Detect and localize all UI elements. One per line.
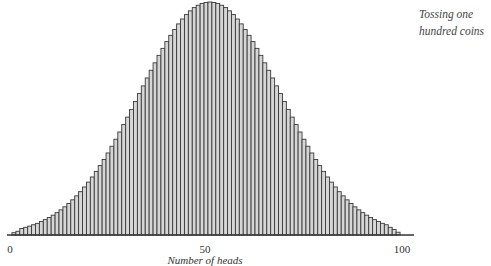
histogram-bar: [79, 192, 83, 235]
histogram-bar: [102, 160, 106, 235]
histogram-bar: [251, 42, 255, 235]
histogram-bar: [126, 117, 130, 235]
histogram-bar: [59, 210, 63, 235]
histogram-bar: [200, 3, 204, 235]
histogram-bar: [75, 196, 79, 235]
histogram-bar: [173, 29, 177, 235]
x-axis-label: Number of heads: [167, 254, 242, 266]
histogram-bar: [306, 146, 310, 235]
histogram-bar: [224, 8, 228, 235]
histogram-bar: [255, 48, 259, 235]
histogram-bar: [110, 146, 114, 235]
histogram-bar: [106, 153, 110, 235]
histogram-bar: [365, 215, 369, 235]
histogram-bar: [282, 101, 286, 235]
histogram-bar: [329, 182, 333, 235]
histogram-bar: [47, 218, 51, 235]
histogram-bar: [141, 86, 145, 235]
histogram-bar: [71, 200, 75, 235]
chart-title-line-2: hundred coins: [419, 23, 491, 40]
histogram-bar: [208, 2, 212, 235]
histogram-bar: [98, 166, 102, 235]
histogram-bar: [130, 109, 134, 235]
histogram-bar: [357, 210, 361, 235]
histogram-bar: [220, 5, 224, 235]
x-tick-0: 0: [7, 243, 13, 255]
histogram-bar: [388, 227, 392, 235]
histogram-bar: [349, 204, 353, 235]
histogram-bar: [153, 63, 157, 235]
histogram-bar: [377, 221, 381, 235]
histogram-bar: [322, 171, 326, 235]
histogram-bar: [310, 153, 314, 235]
histogram-bar: [67, 204, 71, 235]
histogram-bar: [28, 226, 32, 235]
histogram-bar: [326, 177, 330, 235]
histogram-bar: [337, 192, 341, 235]
histogram-bar: [157, 55, 161, 235]
histogram-bar: [384, 225, 388, 235]
histogram-bar: [235, 19, 239, 235]
histogram-bar: [145, 78, 149, 235]
histogram-bar: [247, 35, 251, 235]
histogram-bar: [314, 160, 318, 235]
histogram-bar: [392, 229, 396, 235]
histogram-bar: [302, 139, 306, 235]
histogram-bar: [286, 109, 290, 235]
histogram-bar: [181, 19, 185, 235]
histogram-bar: [373, 220, 377, 235]
histogram-bar: [263, 63, 267, 235]
histogram-bar: [204, 2, 208, 235]
histogram-bar: [188, 11, 192, 235]
histogram-bar: [243, 29, 247, 235]
histogram-bar: [298, 132, 302, 235]
histogram-bar: [63, 207, 67, 235]
histogram-bar: [51, 215, 55, 235]
histogram-bar: [228, 11, 232, 235]
histogram-bar: [361, 213, 365, 235]
histogram-bar: [353, 207, 357, 235]
histogram-bar: [161, 48, 165, 235]
histogram-bar: [94, 171, 98, 235]
histogram-bar: [267, 70, 271, 235]
histogram-bar: [90, 177, 94, 235]
histogram-bars: [12, 2, 400, 235]
histogram-bar: [184, 15, 188, 235]
histogram-bar: [380, 223, 384, 235]
histogram-bar: [149, 70, 153, 235]
chart-title-line-1: Tossing one: [419, 6, 491, 23]
histogram-bar: [43, 220, 47, 235]
histogram-bar: [137, 94, 141, 235]
histogram-bar: [55, 213, 59, 235]
histogram-bar: [290, 117, 294, 235]
histogram-bar: [271, 78, 275, 235]
histogram-bar: [122, 125, 126, 235]
histogram-bar: [39, 221, 43, 235]
histogram-bar: [114, 139, 118, 235]
histogram-bar: [133, 101, 137, 235]
histogram-bar: [212, 2, 216, 235]
histogram-bar: [239, 24, 243, 235]
histogram-bar: [32, 225, 36, 235]
histogram-bar: [275, 86, 279, 235]
histogram-bar: [294, 125, 298, 235]
histogram-bar: [196, 5, 200, 235]
histogram-bar: [345, 200, 349, 235]
histogram-chart: [0, 0, 491, 266]
histogram-bar: [177, 24, 181, 235]
histogram-bar: [279, 94, 283, 235]
histogram-bar: [192, 8, 196, 235]
histogram-bar: [169, 35, 173, 235]
histogram-bar: [216, 3, 220, 235]
chart-title: Tossing one hundred coins: [419, 6, 491, 40]
x-tick-100: 100: [394, 243, 411, 255]
histogram-bar: [333, 187, 337, 235]
histogram-bar: [86, 182, 90, 235]
histogram-bar: [318, 166, 322, 235]
histogram-bar: [369, 218, 373, 235]
histogram-bar: [341, 196, 345, 235]
histogram-bar: [20, 228, 24, 235]
histogram-bar: [83, 187, 87, 235]
histogram-bar: [35, 223, 39, 235]
histogram-bar: [118, 132, 122, 235]
